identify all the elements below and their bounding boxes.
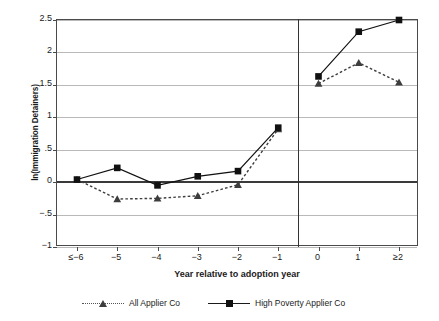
legend-item[interactable]: High Poverty Applier Co	[208, 296, 345, 310]
triangle-marker-icon	[395, 78, 403, 85]
y-tick-label: 0	[26, 176, 52, 185]
x-tick-mark	[77, 247, 78, 251]
square-marker-icon	[355, 28, 362, 35]
x-tick-label: −4	[151, 252, 161, 262]
square-marker-icon	[235, 168, 242, 175]
y-tick-label: −1	[26, 241, 52, 250]
triangle-marker-icon	[113, 195, 121, 202]
y-tick-label: 1.5	[26, 79, 52, 88]
legend-swatch	[82, 297, 124, 309]
chart-legend: All Applier CoHigh Poverty Applier Co	[56, 296, 418, 314]
plot-area	[56, 19, 418, 246]
square-marker-icon	[315, 73, 322, 80]
x-tick-mark	[198, 247, 199, 251]
legend-label: All Applier Co	[129, 298, 180, 308]
y-tick-label: 2	[26, 46, 52, 55]
square-marker-icon	[74, 176, 81, 183]
square-marker-icon	[275, 124, 282, 131]
series-layer	[57, 20, 419, 247]
x-tick-label: 0	[315, 252, 320, 262]
x-tick-mark	[117, 247, 118, 251]
gridline	[57, 247, 417, 248]
square-marker-icon	[226, 300, 233, 307]
legend-label: High Poverty Applier Co	[255, 298, 345, 308]
y-axis-tick-labels: 2.521.51.50−.5−1	[22, 0, 52, 321]
legend-item[interactable]: All Applier Co	[82, 296, 180, 310]
triangle-marker-icon	[234, 181, 242, 188]
square-marker-icon	[114, 165, 121, 172]
chart-figure: ln(Immigration Detainers) 2.521.51.50−.5…	[0, 0, 439, 321]
x-tick-label: −3	[192, 252, 202, 262]
square-marker-icon	[396, 17, 403, 24]
y-tick-label: 2.5	[26, 14, 52, 23]
series-line-square	[77, 128, 278, 186]
triangle-marker-icon	[99, 300, 107, 307]
x-tick-mark	[278, 247, 279, 251]
x-tick-label: ≤−6	[68, 252, 83, 262]
y-tick-label: .5	[26, 144, 52, 153]
x-tick-mark	[359, 247, 360, 251]
y-tick-mark	[53, 247, 57, 248]
x-tick-mark	[238, 247, 239, 251]
x-tick-mark	[158, 247, 159, 251]
legend-swatch	[208, 297, 250, 309]
x-axis-tick-labels: ≤−6−5−4−3−2−101≥2	[56, 252, 418, 266]
series-line-triangle	[77, 129, 278, 199]
square-marker-icon	[194, 173, 201, 180]
x-axis-title: Year relative to adoption year	[56, 269, 418, 279]
triangle-marker-icon	[315, 80, 323, 87]
x-tick-mark	[399, 247, 400, 251]
x-tick-label: −2	[232, 252, 242, 262]
square-marker-icon	[154, 182, 161, 189]
x-tick-mark	[319, 247, 320, 251]
y-tick-label: −.5	[26, 209, 52, 218]
x-tick-label: ≥2	[393, 252, 403, 262]
x-tick-label: −5	[111, 252, 121, 262]
x-tick-label: 1	[355, 252, 360, 262]
y-tick-label: 1	[26, 111, 52, 120]
x-tick-label: −1	[272, 252, 282, 262]
triangle-marker-icon	[355, 59, 363, 66]
